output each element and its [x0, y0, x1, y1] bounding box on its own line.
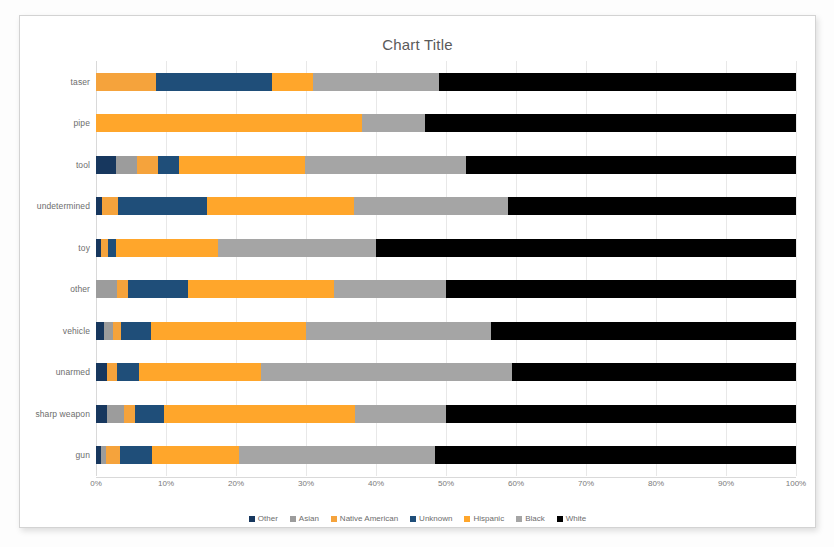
- bar-segment-hispanic[interactable]: [188, 280, 334, 298]
- category-label: taser: [0, 73, 90, 91]
- bar-segment-black[interactable]: [362, 114, 425, 132]
- legend-item[interactable]: Asian: [290, 514, 319, 523]
- bar-segment-unknown[interactable]: [128, 280, 188, 298]
- bar-segment-other[interactable]: [96, 363, 107, 381]
- x-tick-label: 40%: [368, 479, 384, 488]
- bar-segment-unknown[interactable]: [121, 322, 150, 340]
- bar-segment-unknown[interactable]: [108, 239, 116, 257]
- bar-segment-white[interactable]: [512, 363, 796, 381]
- bar-row[interactable]: [96, 197, 796, 215]
- category-label: toy: [0, 239, 90, 257]
- category-label: vehicle: [0, 322, 90, 340]
- bar-segment-native-american[interactable]: [124, 405, 135, 423]
- x-tick-label: 0%: [90, 479, 102, 488]
- bar-segment-hispanic[interactable]: [207, 197, 354, 215]
- bar-row[interactable]: [96, 114, 796, 132]
- category-label: other: [0, 280, 90, 298]
- x-axis-line: [96, 477, 796, 478]
- bar-row[interactable]: [96, 405, 796, 423]
- bar-row[interactable]: [96, 322, 796, 340]
- x-tick-label: 20%: [228, 479, 244, 488]
- bar-segment-native-american[interactable]: [101, 239, 108, 257]
- bar-segment-asian[interactable]: [116, 156, 137, 174]
- bar-segment-hispanic[interactable]: [272, 73, 313, 91]
- x-tick-label: 70%: [578, 479, 594, 488]
- legend-item[interactable]: Hispanic: [464, 514, 504, 523]
- bar-segment-black[interactable]: [218, 239, 376, 257]
- bar-row[interactable]: [96, 363, 796, 381]
- legend-label: Asian: [299, 514, 319, 523]
- bar-segment-native-american[interactable]: [106, 446, 120, 464]
- bar-segment-black[interactable]: [261, 363, 512, 381]
- bar-segment-other[interactable]: [96, 322, 104, 340]
- bar-segment-hispanic[interactable]: [164, 405, 355, 423]
- bar-segment-white[interactable]: [439, 73, 796, 91]
- bar-segment-black[interactable]: [313, 73, 439, 91]
- bar-segment-white[interactable]: [435, 446, 796, 464]
- bar-segment-native-american[interactable]: [102, 197, 118, 215]
- bar-segment-hispanic[interactable]: [116, 239, 218, 257]
- category-label: unarmed: [0, 363, 90, 381]
- bar-segment-hispanic[interactable]: [151, 322, 306, 340]
- bar-segment-asian[interactable]: [104, 322, 112, 340]
- bar-segment-black[interactable]: [354, 197, 508, 215]
- bar-segment-black[interactable]: [355, 405, 446, 423]
- bar-segment-asian[interactable]: [96, 280, 117, 298]
- legend-item[interactable]: White: [557, 514, 586, 523]
- bar-segment-hispanic[interactable]: [139, 363, 261, 381]
- bar-segment-hispanic[interactable]: [179, 156, 305, 174]
- x-tick-label: 80%: [648, 479, 664, 488]
- bar-segment-unknown[interactable]: [158, 156, 179, 174]
- bar-segment-black[interactable]: [305, 156, 466, 174]
- bar-segment-white[interactable]: [446, 405, 796, 423]
- bar-segment-hispanic[interactable]: [96, 114, 362, 132]
- bar-row[interactable]: [96, 156, 796, 174]
- legend-item[interactable]: Native American: [331, 514, 398, 523]
- bar-segment-native-american[interactable]: [107, 363, 117, 381]
- bar-segment-unknown[interactable]: [120, 446, 152, 464]
- legend-swatch-icon: [464, 516, 470, 522]
- bar-segment-other[interactable]: [96, 405, 107, 423]
- legend-item[interactable]: Black: [516, 514, 545, 523]
- bar-segment-native-american[interactable]: [113, 322, 121, 340]
- bar-row[interactable]: [96, 239, 796, 257]
- legend-item[interactable]: Unknown: [410, 514, 452, 523]
- legend-swatch-icon: [410, 516, 416, 522]
- bar-segment-white[interactable]: [376, 239, 796, 257]
- legend-swatch-icon: [290, 516, 296, 522]
- bar-segment-white[interactable]: [446, 280, 796, 298]
- legend-label: Native American: [340, 514, 398, 523]
- category-label: undetermined: [0, 197, 90, 215]
- bar-row[interactable]: [96, 446, 796, 464]
- bar-segment-black[interactable]: [239, 446, 435, 464]
- bar-segment-hispanic[interactable]: [152, 446, 240, 464]
- bar-segment-native-american[interactable]: [117, 280, 128, 298]
- category-label: gun: [0, 446, 90, 464]
- bar-segment-white[interactable]: [508, 197, 796, 215]
- bar-segment-unknown[interactable]: [156, 73, 272, 91]
- x-axis-ticks: 0%10%20%30%40%50%60%70%80%90%100%: [96, 479, 796, 495]
- x-tick-label: 50%: [438, 479, 454, 488]
- bar-row[interactable]: [96, 73, 796, 91]
- category-label: sharp weapon: [0, 405, 90, 423]
- bar-segment-black[interactable]: [306, 322, 492, 340]
- x-tick-label: 60%: [508, 479, 524, 488]
- bar-segment-black[interactable]: [334, 280, 446, 298]
- bar-segment-white[interactable]: [491, 322, 796, 340]
- bar-segment-white[interactable]: [466, 156, 796, 174]
- bar-segment-native-american[interactable]: [96, 73, 156, 91]
- bar-segment-other[interactable]: [96, 156, 116, 174]
- bar-segment-asian[interactable]: [107, 405, 125, 423]
- x-tick-label: 10%: [158, 479, 174, 488]
- legend-swatch-icon: [331, 516, 337, 522]
- legend-label: White: [566, 514, 586, 523]
- bar-segment-unknown[interactable]: [118, 197, 208, 215]
- category-label: pipe: [0, 114, 90, 132]
- legend-swatch-icon: [249, 516, 255, 522]
- bar-row[interactable]: [96, 280, 796, 298]
- bar-segment-unknown[interactable]: [135, 405, 164, 423]
- bar-segment-unknown[interactable]: [117, 363, 139, 381]
- bar-segment-white[interactable]: [425, 114, 796, 132]
- legend-item[interactable]: Other: [249, 514, 278, 523]
- bar-segment-native-american[interactable]: [137, 156, 158, 174]
